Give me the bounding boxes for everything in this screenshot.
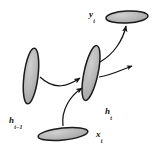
output-node-label-subscript: t <box>93 18 95 24</box>
output-edge <box>100 26 126 62</box>
input-node-label: xt <box>96 124 102 142</box>
input-edge <box>63 88 82 126</box>
hidden-state-current-node-label: ht <box>105 101 112 119</box>
hidden-state-previous-node[interactable] <box>21 47 42 104</box>
hidden-state-previous-node-label: ht−1 <box>9 110 22 128</box>
next-step-edge <box>99 66 132 77</box>
diagram-canvas <box>0 0 155 149</box>
input-node[interactable] <box>38 125 89 142</box>
node-layer <box>21 10 149 143</box>
output-node-label: yt <box>89 4 95 22</box>
recurrent-edge <box>40 77 80 86</box>
hidden-state-current-label-subscript: t <box>110 115 112 121</box>
rnn-cell-diagram: yt ht ht−1 xt <box>0 0 155 149</box>
input-node-label-base: x <box>96 129 101 139</box>
output-node[interactable] <box>106 10 149 24</box>
hidden-state-current-node[interactable] <box>78 44 103 102</box>
hidden-state-previous-label-subscript: t−1 <box>14 124 22 130</box>
